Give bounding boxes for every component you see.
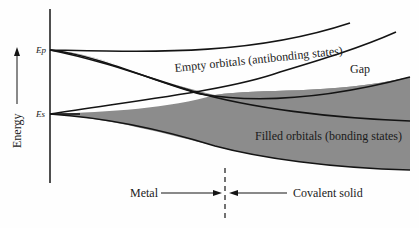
empty-orbitals-label: Empty orbitals (antibonding states) [174,43,344,75]
ep-label: Ep [35,45,46,55]
covalent-solid-label: Covalent solid [293,186,363,200]
es-label: Es [35,109,45,119]
gap-label: Gap [350,62,370,76]
band-diagram: Ep Es Energy Empty orbitals (antibonding… [0,0,419,228]
covalent-arrow-head-icon [229,190,238,196]
diagram-canvas: Ep Es Energy Empty orbitals (antibonding… [0,0,419,228]
metal-label: Metal [130,186,159,200]
filled-orbitals-label: Filled orbitals (bonding states) [255,129,402,143]
metal-arrow-head-icon [213,190,222,196]
energy-axis-label: Energy [10,114,24,148]
energy-arrow-head-icon [14,47,20,56]
